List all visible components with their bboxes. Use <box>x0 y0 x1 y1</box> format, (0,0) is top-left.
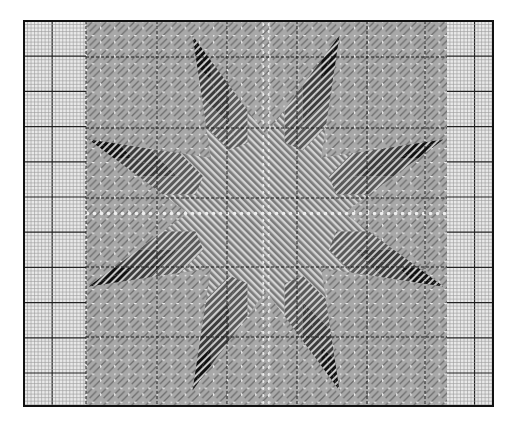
star-chart-canvas <box>0 0 514 435</box>
stitch-chart <box>0 0 514 435</box>
